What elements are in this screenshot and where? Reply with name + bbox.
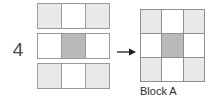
strip-cell [61,3,86,29]
block-a-caption: Block A [140,84,214,98]
block-cell [140,9,162,34]
block-cell [140,33,162,58]
strip-cell [37,63,62,89]
strip-cell [85,63,110,89]
strip-cell [85,3,110,29]
left-strip-middle [37,33,110,59]
strip-cell [37,3,62,29]
block-cell [161,33,183,58]
block-cell [161,57,183,82]
strip-cell [37,33,62,59]
block-cell [183,57,205,82]
arrow-right-icon [117,43,137,53]
left-strip-bottom [37,63,110,89]
block-cell [161,9,183,34]
block-cell [183,9,205,34]
strip-cell [61,63,86,89]
block-cell [140,57,162,82]
strip-cell [85,33,110,59]
block-cell [183,33,205,58]
strip-cell [61,33,86,59]
block-a-grid [140,9,204,81]
left-strip-top [37,3,110,29]
diagram-canvas: 4 Block A [0,0,214,103]
question-number: 4 [9,38,27,62]
